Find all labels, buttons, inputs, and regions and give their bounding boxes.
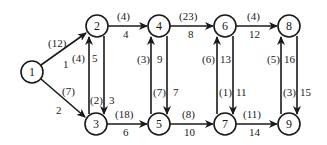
edge-3-5-weight: (18) (115, 108, 134, 121)
network-diagram: (12) 1 (7) 2 (4) 5 (2) 3 (4) 4 (18) 6 (3… (0, 0, 327, 145)
edge-1-2-index: 1 (63, 58, 69, 70)
edge-6-8-index: 12 (249, 28, 260, 40)
edge-3-5-index: 6 (123, 126, 129, 138)
edge-7-9-index: 14 (249, 126, 261, 138)
edge-4-6-index: 8 (188, 28, 194, 40)
node-6-label: 6 (222, 19, 228, 33)
edge-2-3-weight: (2) (90, 94, 103, 107)
node-4-label: 4 (156, 19, 162, 33)
node-8-label: 8 (286, 19, 292, 33)
edge-7-6-index: 13 (220, 53, 232, 65)
edge-5-7-index: 10 (184, 126, 196, 138)
node-1: 1 (21, 61, 43, 83)
edge-4-5-index: 7 (173, 86, 179, 98)
edge-4-6-weight: (23) (179, 10, 198, 23)
edge-3-2-weight: (4) (72, 52, 85, 65)
edge-2-3-index: 3 (109, 94, 115, 106)
edge-9-8-index: 16 (284, 53, 296, 65)
edge-5-7-weight: (8) (182, 108, 195, 121)
node-9-label: 9 (286, 117, 292, 131)
edge-9-8-weight: (5) (267, 53, 280, 66)
edge-7-6-weight: (6) (202, 53, 215, 66)
node-1-label: 1 (29, 65, 35, 79)
node-9: 9 (278, 113, 300, 135)
edge-8-9-weight: (3) (283, 86, 296, 99)
edge-1-3-index: 2 (56, 104, 62, 116)
node-5-label: 5 (156, 117, 162, 131)
edge-2-4-index: 4 (123, 28, 129, 40)
node-6: 6 (214, 15, 236, 37)
edge-1-2-weight: (12) (48, 37, 67, 50)
node-4: 4 (148, 15, 170, 37)
edge-6-7-index: 11 (236, 86, 247, 98)
edge-7-9-weight: (11) (243, 108, 261, 121)
node-2: 2 (86, 15, 108, 37)
node-2-label: 2 (94, 19, 100, 33)
node-7: 7 (214, 113, 236, 135)
node-3-label: 3 (93, 117, 99, 131)
edge-6-8-weight: (4) (247, 10, 260, 23)
edge-1-3-weight: (7) (62, 85, 75, 98)
node-7-label: 7 (222, 117, 228, 131)
node-5: 5 (148, 113, 170, 135)
edge-5-4-weight: (3) (137, 53, 150, 66)
node-3: 3 (85, 113, 107, 135)
edge-5-4-index: 9 (157, 53, 163, 65)
edge-4-5-weight: (7) (153, 86, 166, 99)
edge-3-2-index: 5 (92, 52, 98, 64)
edge-8-9-index: 15 (300, 86, 312, 98)
edge-6-7-weight: (1) (219, 86, 232, 99)
node-8: 8 (278, 15, 300, 37)
diagram-svg: (12) 1 (7) 2 (4) 5 (2) 3 (4) 4 (18) 6 (3… (0, 0, 327, 145)
edge-2-4-weight: (4) (117, 10, 130, 23)
